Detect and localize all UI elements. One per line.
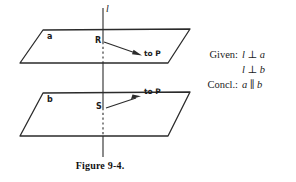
conclusion-statement: a∥b [242,78,263,90]
plane-a-parallelogram [20,29,190,63]
concl-left: a [242,79,248,90]
given-2-right: b [260,64,266,75]
plane-b-parallelogram [20,92,190,136]
given-statement-2: l⊥b [242,63,266,75]
figure-9-4: l a b R S to P to P Given: l⊥a l⊥b Concl… [0,0,296,182]
concl-right: b [257,79,263,90]
proof-statement: Given: l⊥a l⊥b Concl.: a∥b [196,48,296,93]
to-p-label-lower: to P [144,88,161,96]
plane-a-label: a [47,33,52,41]
arrowhead-r-to-p [132,50,142,56]
point-r-label: R [95,37,101,45]
given-label: Given: [196,49,242,60]
line-l-label: l [106,4,109,14]
conclusion-label: Concl.: [196,79,242,90]
given-row-1: Given: l⊥a [196,48,296,63]
ray-s-to-p [106,98,136,108]
ray-r-to-p [104,42,137,54]
perpendicular-symbol-1: ⊥ [245,49,259,60]
perpendicular-symbol-2: ⊥ [245,64,259,75]
point-s-label: S [96,103,102,111]
given-1-right: a [260,49,266,60]
given-row-2: l⊥b [196,63,296,78]
parallel-symbol: ∥ [248,79,257,90]
conclusion-row: Concl.: a∥b [196,78,296,93]
to-p-label-upper: to P [144,50,161,58]
given-statement-1: l⊥a [242,48,266,60]
figure-caption: Figure 9-4. [0,160,200,171]
plane-b-label: b [47,96,53,104]
